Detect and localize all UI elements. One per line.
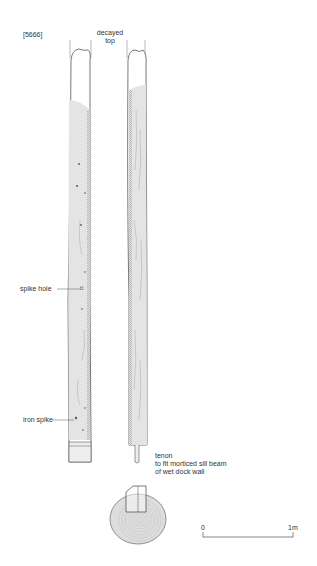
decayed-top-label: decayed top xyxy=(90,29,130,45)
timber-post-drawing xyxy=(0,0,317,566)
post-front-view xyxy=(68,49,91,462)
cross-section xyxy=(110,486,166,544)
post-side-view xyxy=(128,50,147,463)
scale-bar xyxy=(203,532,293,537)
tenon-label: tenon to fit morticed sill beam of wet d… xyxy=(155,452,227,476)
scale-end-label: 1m xyxy=(288,524,298,532)
decayed-top-line1: decayed xyxy=(90,29,130,37)
spike-hole-label: spike hole xyxy=(20,285,52,293)
context-number: [5666] xyxy=(23,31,42,39)
scale-start-label: 0 xyxy=(201,524,205,532)
tenon-line2: to fit morticed sill beam xyxy=(155,460,227,468)
iron-spike-label: iron spike xyxy=(23,416,53,424)
tenon-line3: of wet dock wall xyxy=(155,468,227,476)
tenon-line1: tenon xyxy=(155,452,227,460)
decayed-top-line2: top xyxy=(90,37,130,45)
